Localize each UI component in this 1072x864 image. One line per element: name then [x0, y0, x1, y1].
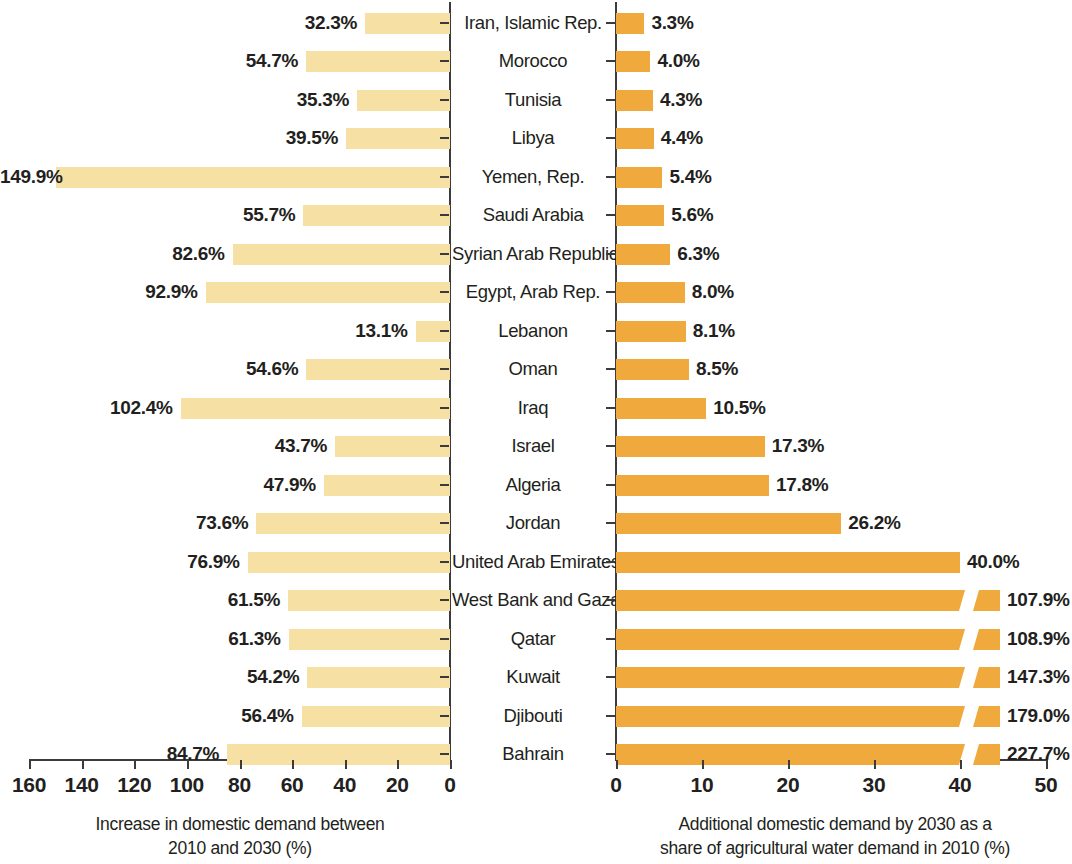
left-bar-value: 55.7%	[0, 202, 295, 228]
left-category-tick	[440, 753, 449, 755]
left-axis-tick-label: 120	[104, 772, 164, 798]
left-bar	[181, 398, 450, 419]
right-axis-caption-line1: Additional domestic demand by 2030 as a	[615, 812, 1055, 836]
chart-row: 43.7%Israel17.3%	[0, 427, 1072, 466]
category-label: Morocco	[452, 48, 614, 74]
right-axis-tick-label: 40	[930, 772, 990, 798]
right-axis-tick	[616, 760, 618, 769]
right-category-tick	[606, 445, 615, 447]
left-category-tick	[440, 176, 449, 178]
right-bar	[616, 359, 689, 380]
left-bar-value: 54.7%	[0, 48, 298, 74]
right-bar-value: 147.3%	[1007, 664, 1070, 690]
right-bar-value: 5.4%	[669, 164, 711, 190]
left-bar-value: 43.7%	[0, 433, 327, 459]
right-bar-value: 6.3%	[677, 241, 719, 267]
chart-row: 73.6%Jordan26.2%	[0, 504, 1072, 543]
chart-row: 61.3%Qatar108.9%	[0, 620, 1072, 659]
right-bar	[616, 128, 654, 149]
right-bar-value: 5.6%	[671, 202, 713, 228]
right-category-tick	[606, 484, 615, 486]
left-bar	[324, 475, 450, 496]
left-category-tick	[440, 99, 449, 101]
left-bar	[289, 629, 450, 650]
category-label: Djibouti	[452, 703, 614, 729]
right-bar	[616, 244, 670, 265]
right-bar	[616, 51, 650, 72]
left-category-tick	[440, 638, 449, 640]
left-category-tick	[440, 484, 449, 486]
left-bar	[227, 744, 450, 765]
category-label: Iran, Islamic Rep.	[452, 10, 614, 36]
left-bar-value: 73.6%	[0, 510, 248, 536]
left-axis-tick-label: 140	[52, 772, 112, 798]
right-axis-tick-label: 10	[672, 772, 732, 798]
right-axis-tick-label: 30	[844, 772, 904, 798]
right-bar-value: 108.9%	[1007, 626, 1070, 652]
right-bar	[616, 282, 685, 303]
chart-row: 102.4%Iraq10.5%	[0, 389, 1072, 428]
right-bar	[616, 629, 1000, 650]
left-bar	[306, 359, 450, 380]
left-bar-value: 82.6%	[0, 241, 225, 267]
category-label: Tunisia	[452, 87, 614, 113]
left-axis-tick-label: 40	[315, 772, 375, 798]
left-axis-tick	[134, 760, 136, 769]
left-bar-value: 54.6%	[0, 356, 298, 382]
right-bar	[616, 667, 1000, 688]
right-bar-value: 40.0%	[967, 549, 1019, 575]
category-label: Libya	[452, 125, 614, 151]
chart-row: 47.9%Algeria17.8%	[0, 466, 1072, 505]
left-axis-tick-label: 160	[0, 772, 59, 798]
left-axis-tick	[450, 760, 452, 769]
right-axis-tick	[788, 760, 790, 769]
right-bar	[616, 552, 960, 573]
left-bar	[335, 436, 450, 457]
right-bar-value: 179.0%	[1007, 703, 1070, 729]
category-label: Yemen, Rep.	[452, 164, 614, 190]
right-axis-tick	[1046, 760, 1048, 769]
left-category-tick	[440, 291, 449, 293]
right-bar	[616, 13, 644, 34]
right-bar-value: 8.0%	[692, 279, 734, 305]
left-bar	[206, 282, 450, 303]
right-bar	[616, 436, 765, 457]
left-category-tick	[440, 676, 449, 678]
category-label: Bahrain	[452, 741, 614, 767]
category-label: United Arab Emirates	[452, 549, 614, 575]
left-category-tick	[440, 445, 449, 447]
right-category-tick	[606, 137, 615, 139]
left-bar	[306, 51, 450, 72]
left-bar-value: 76.9%	[0, 549, 240, 575]
left-bar-value: 102.4%	[0, 395, 173, 421]
right-category-tick	[606, 176, 615, 178]
chart-row: 61.5%West Bank and Gaza107.9%	[0, 581, 1072, 620]
left-category-tick	[440, 522, 449, 524]
chart-row: 54.2%Kuwait147.3%	[0, 658, 1072, 697]
right-category-tick	[606, 330, 615, 332]
left-bar-value: 61.5%	[0, 587, 280, 613]
left-axis-tick-label: 100	[157, 772, 217, 798]
right-bar	[616, 706, 1000, 727]
right-bar-value: 10.5%	[713, 395, 765, 421]
category-label: Kuwait	[452, 664, 614, 690]
left-bar-value: 92.9%	[0, 279, 198, 305]
chart-row: 92.9%Egypt, Arab Rep.8.0%	[0, 273, 1072, 312]
right-category-tick	[606, 291, 615, 293]
right-bar-value: 3.3%	[651, 10, 693, 36]
right-category-tick	[606, 676, 615, 678]
left-category-tick	[440, 330, 449, 332]
chart-row: 149.9%Yemen, Rep.5.4%	[0, 158, 1072, 197]
right-category-tick	[606, 407, 615, 409]
left-axis-tick	[240, 760, 242, 769]
category-label: Algeria	[452, 472, 614, 498]
left-bar-value: 47.9%	[0, 472, 316, 498]
right-axis-tick	[874, 760, 876, 769]
chart-row: 55.7%Saudi Arabia5.6%	[0, 196, 1072, 235]
right-bar	[616, 513, 841, 534]
left-bar-value: 149.9%	[0, 164, 48, 190]
left-category-tick	[440, 253, 449, 255]
left-axis-caption-line1: Increase in domestic demand between	[29, 812, 451, 836]
left-axis-caption-line2: 2010 and 2030 (%)	[29, 836, 451, 860]
right-category-tick	[606, 60, 615, 62]
